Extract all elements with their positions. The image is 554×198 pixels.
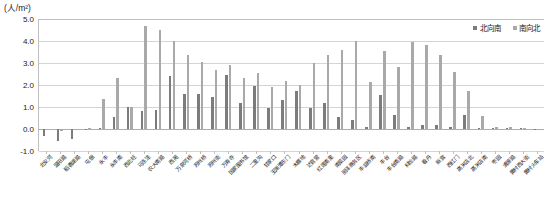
bar-a	[141, 111, 144, 129]
bar-b	[215, 70, 218, 129]
x-axis-tick-mark	[313, 151, 314, 154]
x-axis-tick-mark	[481, 151, 482, 154]
bar-group	[418, 19, 432, 151]
x-axis-tick-mark	[74, 151, 75, 154]
bar-a	[211, 97, 214, 129]
bar-b	[481, 116, 484, 129]
bar-group	[277, 19, 291, 151]
legend-item-north-to-south: 北向南	[473, 22, 501, 33]
bar-group	[446, 19, 460, 151]
passenger-density-bar-chart: (人/m²) -1.00.01.02.03.04.05.0 北安河温阳路稻香湖路…	[0, 0, 554, 198]
bar-group	[334, 19, 348, 151]
bar-b	[46, 129, 49, 130]
bar-a	[281, 100, 284, 129]
bar-b	[187, 55, 190, 129]
y-axis-tick-label: 5.0	[23, 15, 34, 24]
x-axis-tick-mark	[425, 151, 426, 154]
bar-b	[453, 72, 456, 129]
legend-label-series-b: 南向北	[519, 22, 540, 33]
bar-b	[243, 78, 246, 129]
bar-group	[39, 19, 53, 151]
bar-group	[292, 19, 306, 151]
x-axis-tick-mark	[383, 151, 384, 154]
bar-a	[183, 94, 186, 129]
y-axis-tick-label: 2.0	[23, 81, 34, 90]
y-axis-unit-text: (人/m²)	[4, 3, 31, 13]
x-axis-tick-mark	[172, 151, 173, 154]
bar-b	[425, 45, 428, 129]
y-axis-tick-label: 3.0	[23, 59, 34, 68]
bar-group	[263, 19, 277, 151]
legend-swatch-icon-series-b	[513, 26, 517, 30]
bar-a	[379, 95, 382, 129]
x-axis-tick-mark	[102, 151, 103, 154]
bar-a	[506, 128, 509, 129]
bar-a	[239, 103, 242, 129]
bar-group	[432, 19, 446, 151]
x-axis-tick-mark	[46, 151, 47, 154]
x-axis-tick-mark	[537, 151, 538, 154]
bar-group	[109, 19, 123, 151]
x-axis-tick-mark	[130, 151, 131, 154]
bar-b	[341, 50, 344, 129]
bar-a	[421, 125, 424, 129]
bar-group	[249, 19, 263, 151]
bar-b	[397, 67, 400, 129]
bar-b	[369, 82, 372, 129]
bar-b	[159, 30, 162, 129]
x-axis-category-text: 丰台	[379, 154, 390, 165]
bar-group	[221, 19, 235, 151]
x-axis-category-text: 北安河	[38, 154, 53, 169]
bar-group	[95, 19, 109, 151]
bar-group	[376, 19, 390, 151]
x-axis-tick-mark	[256, 151, 257, 154]
x-axis-tick-mark	[144, 151, 145, 154]
bar-a	[43, 129, 46, 136]
bar-a	[267, 108, 270, 129]
bar-a	[253, 86, 256, 129]
bar-b	[523, 128, 526, 129]
bar-b	[74, 129, 77, 130]
bar-b	[257, 73, 260, 129]
bar-group	[488, 19, 502, 151]
bar-b	[299, 85, 302, 129]
bar-a	[323, 103, 326, 129]
bar-group	[516, 19, 530, 151]
bar-group	[207, 19, 221, 151]
bar-group	[179, 19, 193, 151]
x-axis-tick-mark	[116, 151, 117, 154]
bar-b	[60, 129, 63, 131]
x-axis-tick-mark	[509, 151, 510, 154]
bar-a	[155, 110, 158, 129]
x-axis-tick-mark	[60, 151, 61, 154]
bar-group	[362, 19, 376, 151]
bar-a	[85, 129, 88, 130]
x-axis-tick-mark	[88, 151, 89, 154]
bar-a	[113, 117, 116, 129]
bar-a	[365, 127, 368, 129]
x-axis-category-labels: 北安河温阳路稻香湖路屯佃永丰永丰南西北旺马连洼农大南路西苑万泉河桥苏州桥苏州街万…	[39, 151, 544, 198]
bar-b	[439, 55, 442, 129]
x-axis-tick-mark	[200, 151, 201, 154]
bar-b	[509, 127, 512, 129]
bar-group	[235, 19, 249, 151]
x-axis-tick-mark	[228, 151, 229, 154]
bar-a	[197, 94, 200, 129]
bar-group	[502, 19, 516, 151]
y-axis-tick-label: 0.0	[23, 125, 34, 134]
x-axis-tick-mark	[439, 151, 440, 154]
bar-b	[313, 63, 316, 129]
bar-group	[67, 19, 81, 151]
legend-swatch-icon-series-a	[473, 26, 477, 30]
bar-b	[201, 62, 204, 129]
bar-a	[449, 127, 452, 129]
bar-group	[53, 19, 67, 151]
bar-b	[537, 129, 540, 130]
bar-group	[348, 19, 362, 151]
bar-b	[495, 127, 498, 129]
x-axis-tick-mark	[453, 151, 454, 154]
x-axis-category-text: 新宫	[435, 154, 446, 165]
x-axis-category-text: 看丹	[421, 154, 432, 165]
bar-a	[225, 75, 228, 129]
bar-group	[123, 19, 137, 151]
